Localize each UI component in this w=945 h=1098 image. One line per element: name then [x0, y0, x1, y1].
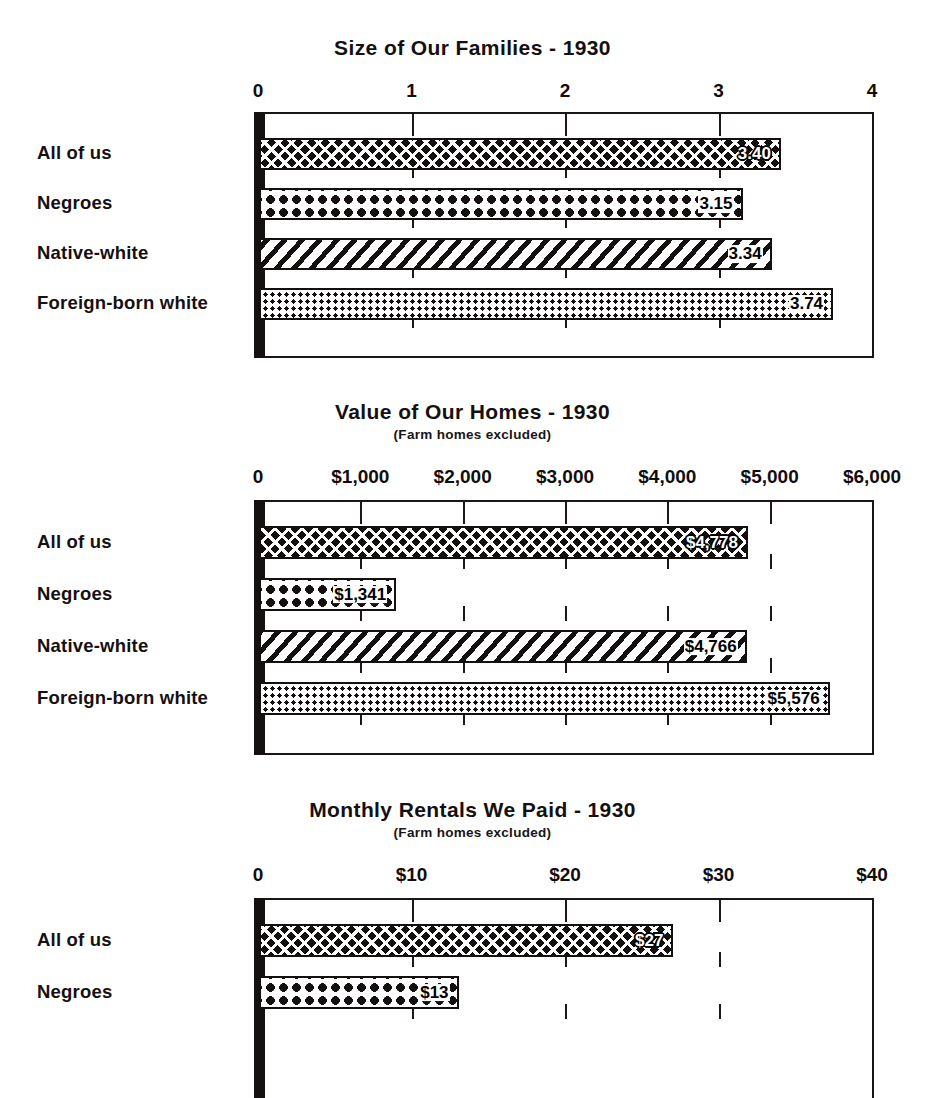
x-tick-label: $10: [396, 864, 428, 886]
x-tick-label: $3,000: [536, 466, 594, 488]
gridline: [770, 606, 772, 621]
x-tick-label: $4,000: [638, 466, 696, 488]
bar: $5,576: [259, 682, 830, 715]
bar-value-label: 3.34: [728, 245, 763, 263]
bar: $13: [259, 976, 459, 1009]
x-axis-tick-labels: 01234: [0, 76, 945, 102]
x-tick-label: 1: [406, 80, 417, 102]
x-tick-label: 0: [253, 864, 264, 886]
chart-subtitle: (Farm homes excluded): [0, 427, 945, 442]
bar: $4,778: [259, 526, 748, 559]
category-label: Native-white: [37, 242, 148, 264]
bar-value-label: 3.74: [789, 295, 824, 313]
x-axis-tick-labels: 0$10$20$30$40: [0, 860, 945, 886]
x-tick-label: $6,000: [843, 466, 901, 488]
bar: $27: [259, 924, 673, 957]
bar-value-label: 3.15: [698, 195, 733, 213]
gridline: [719, 1004, 721, 1019]
gridline: [667, 606, 669, 621]
gridline: [770, 554, 772, 569]
x-tick-label: $2,000: [434, 466, 492, 488]
x-tick-label: $30: [703, 864, 735, 886]
category-label: Foreign-born white: [37, 687, 208, 709]
gridline: [770, 658, 772, 673]
category-label: All of us: [37, 142, 112, 164]
x-tick-label: 0: [253, 80, 264, 102]
bar-value-label: 3.40: [737, 145, 772, 163]
x-tick-label: $20: [549, 864, 581, 886]
category-label: All of us: [37, 531, 112, 553]
gridline: [565, 606, 567, 621]
x-tick-label: 3: [713, 80, 724, 102]
gridline: [770, 502, 772, 524]
gridline: [719, 114, 721, 136]
category-label: All of us: [37, 929, 112, 951]
chart-size-of-families: Size of Our Families - 193001234All of u…: [0, 36, 945, 60]
gridline: [719, 952, 721, 967]
gridline: [360, 502, 362, 524]
gridline: [667, 502, 669, 524]
gridline: [463, 606, 465, 621]
gridline: [412, 900, 414, 922]
bar: $1,341: [259, 578, 396, 611]
bar: 3.40: [259, 138, 781, 170]
bar-value-label: $4,766: [684, 638, 738, 656]
bar-value-label: $27: [634, 932, 664, 950]
x-tick-label: $40: [856, 864, 888, 886]
x-tick-label: 2: [560, 80, 571, 102]
chart-monthly-rentals: Monthly Rentals We Paid - 1930(Farm home…: [0, 798, 945, 840]
x-tick-label: 4: [867, 80, 878, 102]
bar-value-label: $1,341: [333, 586, 387, 604]
x-axis-tick-labels: 0$1,000$2,000$3,000$4,000$5,000$6,000: [0, 462, 945, 488]
x-tick-label: $5,000: [741, 466, 799, 488]
gridline: [565, 900, 567, 922]
chart-value-of-homes: Value of Our Homes - 1930(Farm homes exc…: [0, 400, 945, 442]
bar-value-label: $4,778: [685, 534, 739, 552]
chart-title: Size of Our Families - 1930: [0, 36, 945, 60]
gridline: [463, 502, 465, 524]
bar: 3.34: [259, 238, 772, 270]
bar: $4,766: [259, 630, 747, 663]
category-label: Negroes: [37, 192, 112, 214]
chart-title: Value of Our Homes - 1930: [0, 400, 945, 424]
bar-value-label: $5,576: [767, 690, 821, 708]
bar: 3.15: [259, 188, 743, 220]
category-label: Negroes: [37, 981, 112, 1003]
gridline: [565, 1004, 567, 1019]
gridline: [412, 114, 414, 136]
category-label: Native-white: [37, 635, 148, 657]
x-tick-label: 0: [253, 466, 264, 488]
gridline: [719, 900, 721, 922]
bar-value-label: $13: [419, 984, 449, 1002]
category-label: Negroes: [37, 583, 112, 605]
chart-title: Monthly Rentals We Paid - 1930: [0, 798, 945, 822]
gridline: [565, 114, 567, 136]
gridline: [565, 502, 567, 524]
x-tick-label: $1,000: [331, 466, 389, 488]
category-label: Foreign-born white: [37, 292, 208, 314]
chart-subtitle: (Farm homes excluded): [0, 825, 945, 840]
bar: 3.74: [259, 288, 833, 320]
